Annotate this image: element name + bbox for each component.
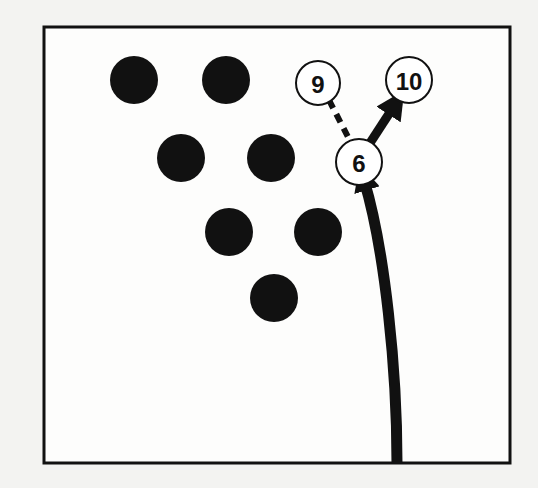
pin-7 [110,56,158,104]
pin-10-label: 10 [396,68,423,95]
pin-9: 9 [296,61,340,105]
pin-4 [157,134,205,182]
pin-5 [247,134,295,182]
pin-6: 6 [336,139,382,185]
bowling-pin-diagram: 9106 [0,0,538,488]
pin-9-label: 9 [311,71,324,98]
pin-10: 10 [386,57,432,103]
pin-6-label: 6 [352,150,365,177]
pin-8 [202,56,250,104]
pin-1 [250,274,298,322]
pin-3 [294,208,342,256]
pin-2 [205,208,253,256]
